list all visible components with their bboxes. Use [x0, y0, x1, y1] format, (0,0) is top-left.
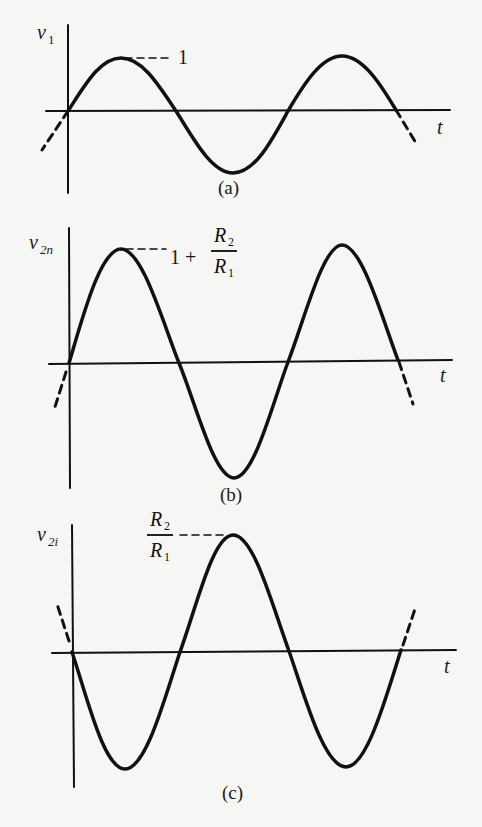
panel-a-dashed-extension-right	[396, 110, 416, 143]
panel-a-plot	[42, 25, 450, 193]
panel-b-peak-fraction: R2 R1	[211, 224, 237, 278]
panel-b-x-label: t	[440, 365, 446, 385]
panel-c-y-label: v2i	[37, 524, 58, 544]
fraction-denominator: R1	[150, 539, 170, 562]
panel-a-x-axis	[46, 110, 450, 111]
panel-a-sine-curve	[68, 56, 396, 173]
fraction-denominator: R1	[214, 255, 234, 278]
panel-b-y-label: v2n	[29, 232, 53, 252]
panel-b-dashed-extension-left	[54, 372, 66, 410]
fraction-bar	[211, 250, 237, 252]
panel-b-peak-label-prefix: 1 +	[170, 247, 196, 267]
panel-a-y-label: v1	[37, 22, 54, 42]
panel-c-x-label: t	[444, 656, 450, 676]
panel-c-caption: (c)	[222, 783, 243, 802]
panel-c-dashed-extension-right	[403, 609, 415, 645]
panel-b-x-axis	[49, 360, 452, 364]
panel-b-dashed-extension-right	[399, 362, 413, 404]
fraction-bar	[147, 534, 173, 536]
panel-c-plot	[52, 525, 456, 787]
fraction-numerator: R2	[150, 508, 170, 531]
panel-c-x-axis	[52, 650, 456, 653]
panel-a-caption: (a)	[218, 178, 239, 197]
panel-c-peak-fraction: R2 R1	[147, 508, 173, 562]
waveform-figure	[0, 0, 482, 827]
fraction-numerator: R2	[214, 224, 234, 247]
panel-a-dashed-extension-left	[42, 111, 68, 150]
panel-b-plot	[49, 228, 452, 488]
panel-c-dashed-extension-left	[57, 604, 69, 641]
panel-a-peak-label: 1	[178, 47, 188, 67]
panel-b-caption: (b)	[220, 485, 242, 504]
panel-a-x-label: t	[437, 117, 443, 137]
